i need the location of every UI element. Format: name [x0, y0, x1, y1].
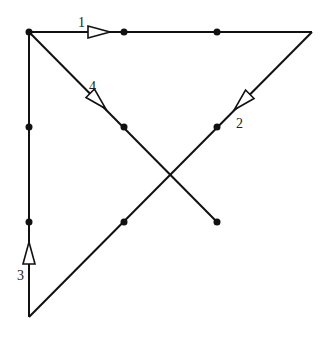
vertex-dot — [121, 124, 128, 131]
edge-label-4: 4 — [89, 79, 96, 94]
vertex-dot — [121, 219, 128, 226]
vertex-dot — [26, 219, 33, 226]
vertex-dot — [121, 29, 128, 36]
vertex-dot — [214, 29, 221, 36]
vertex-dot — [26, 29, 33, 36]
edge-label-3: 3 — [17, 268, 24, 283]
arrow-up-icon — [23, 242, 35, 264]
path-diagram: 1 2 3 4 — [0, 0, 330, 339]
vertex-dot — [214, 219, 221, 226]
edges — [29, 32, 312, 317]
vertex-dot — [26, 124, 33, 131]
arrow-right-icon — [88, 26, 110, 38]
vertex-dot — [214, 124, 221, 131]
edge-label-1: 1 — [78, 15, 85, 30]
edge-label-2: 2 — [236, 116, 243, 131]
